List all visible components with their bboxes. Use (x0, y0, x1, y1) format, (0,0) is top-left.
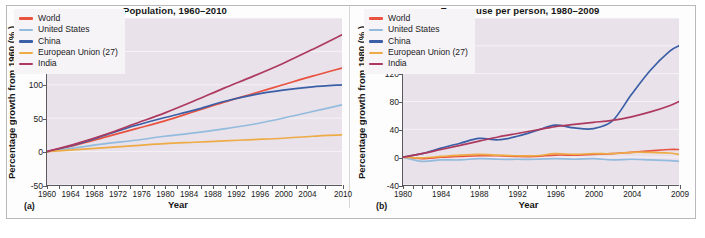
legend-item-world: World (19, 13, 118, 24)
x-tick-label: 1960 (38, 190, 56, 199)
x-tick-mark (189, 185, 190, 189)
y-tick-mark (399, 130, 403, 131)
x-tick-mark-minor (422, 186, 423, 189)
x-tick-label: 1992 (227, 190, 245, 199)
x-tick-mark-minor (623, 186, 624, 189)
legend-label-china: China (38, 36, 60, 47)
x-tick-mark (403, 185, 404, 189)
legend-swatch-european-union (369, 52, 383, 54)
x-tick-mark-minor (668, 186, 669, 189)
panel-b: Energy use per person, 1980–2009 Percent… (350, 0, 690, 214)
x-tick-mark-minor (106, 186, 107, 189)
x-tick-mark-minor (451, 186, 452, 189)
x-tick-label: 1980 (156, 190, 174, 199)
x-tick-mark-minor (460, 186, 461, 189)
x-tick-mark-minor (508, 186, 509, 189)
x-tick-mark-minor (470, 186, 471, 189)
x-tick-mark-minor (130, 186, 131, 189)
y-tick-label: 50 (34, 114, 43, 124)
x-tick-label: 2000 (275, 190, 293, 199)
x-tick-mark-minor (59, 186, 60, 189)
legend-swatch-india (369, 63, 383, 65)
legend-swatch-india (19, 63, 33, 65)
x-tick-mark-minor (613, 186, 614, 189)
y-tick-mark (399, 102, 403, 103)
x-tick-label: 1968 (85, 190, 103, 199)
panel-b-legend: World United States China European Union… (364, 9, 475, 74)
x-tick-label: 1992 (509, 190, 527, 199)
legend-label-china: China (388, 36, 410, 47)
x-tick-mark (94, 185, 95, 189)
x-tick-mark-minor (201, 186, 202, 189)
legend-label-european-union: European Union (27) (388, 47, 468, 58)
legend-item-united-states: United States (369, 24, 468, 35)
legend-item-india: India (369, 58, 468, 69)
x-tick-mark (71, 185, 72, 189)
legend-label-european-union: European Union (27) (38, 47, 118, 58)
x-tick-label: 1996 (251, 190, 269, 199)
x-tick-mark (441, 185, 442, 189)
x-tick-mark (307, 185, 308, 189)
legend-swatch-world (19, 17, 33, 19)
legend-item-european-union: European Union (27) (19, 47, 118, 58)
x-tick-mark-minor (177, 186, 178, 189)
x-tick-mark (594, 185, 595, 189)
legend-label-united-states: United States (388, 24, 440, 35)
x-tick-mark-minor (537, 186, 538, 189)
legend-item-european-union: European Union (27) (369, 47, 468, 58)
legend-item-world: World (369, 13, 468, 24)
x-tick-mark-minor (413, 186, 414, 189)
legend-swatch-european-union (19, 52, 33, 54)
x-tick-mark-minor (154, 186, 155, 189)
panel-a-x-axis-label: Year (30, 199, 326, 210)
y-tick-mark (43, 152, 47, 153)
legend-item-united-states: United States (19, 24, 118, 35)
x-tick-mark (213, 185, 214, 189)
x-tick-label: 2009 (671, 190, 689, 199)
x-tick-mark-minor (325, 186, 326, 189)
x-tick-mark (236, 185, 237, 189)
x-tick-label: 2000 (585, 190, 603, 199)
y-tick-label: 80 (390, 97, 399, 107)
legend-item-china: China (19, 36, 118, 47)
x-tick-mark-minor (656, 186, 657, 189)
x-tick-mark (479, 185, 480, 189)
x-tick-mark (284, 185, 285, 189)
x-tick-label: 2004 (623, 190, 641, 199)
x-tick-mark-minor (83, 186, 84, 189)
x-tick-label: 1972 (109, 190, 127, 199)
x-tick-mark-minor (527, 186, 528, 189)
x-tick-label: 1976 (133, 190, 151, 199)
legend-label-india: India (38, 58, 57, 69)
x-tick-mark-minor (565, 186, 566, 189)
x-tick-mark (556, 185, 557, 189)
x-tick-mark (518, 185, 519, 189)
x-tick-mark (118, 185, 119, 189)
x-tick-mark-minor (296, 186, 297, 189)
panel-a: Population, 1960–2010 Percentage growth … (0, 0, 350, 214)
x-tick-mark (260, 185, 261, 189)
x-tick-mark-minor (489, 186, 490, 189)
x-tick-mark-minor (499, 186, 500, 189)
x-tick-label: 1964 (62, 190, 80, 199)
legend-swatch-united-states (369, 29, 383, 31)
x-tick-mark-minor (225, 186, 226, 189)
x-tick-label: 2004 (298, 190, 316, 199)
x-tick-mark (142, 185, 143, 189)
legend-swatch-world (369, 17, 383, 19)
y-tick-mark (399, 74, 403, 75)
y-tick-mark (43, 85, 47, 86)
x-tick-mark-minor (272, 186, 273, 189)
y-tick-mark (43, 119, 47, 120)
figure-container: Population, 1960–2010 Percentage growth … (0, 0, 705, 238)
legend-label-india: India (388, 58, 407, 69)
legend-swatch-china (369, 40, 383, 42)
x-tick-mark-minor (604, 186, 605, 189)
y-tick-label: 100 (29, 80, 43, 90)
x-tick-label: 1984 (432, 190, 450, 199)
x-tick-label: 1980 (394, 190, 412, 199)
legend-swatch-united-states (19, 29, 33, 31)
x-tick-mark (632, 185, 633, 189)
x-tick-label: 1984 (180, 190, 198, 199)
panel-a-legend: World United States China European Union… (14, 9, 125, 74)
